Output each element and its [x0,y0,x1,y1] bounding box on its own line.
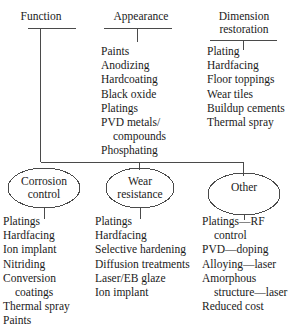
list-item: Ion implant [3,242,95,256]
list-wear-resistance: Platings Hardfacing Selective hardening … [95,214,200,299]
list-item: Hardfacing [3,228,95,242]
list-item: Conversion [3,271,95,285]
list-item: Platings—RF [202,214,297,228]
list-item: Hardfacing [207,58,297,72]
column-header-appearance: Appearance [99,10,183,23]
list-item: Thermal spray [3,299,95,313]
list-item: Hardfacing [95,228,200,242]
list-other: Platings—RF control PVD—doping Alloying—… [202,214,297,313]
node-label-wear-resistance: Wear resistance [107,175,173,202]
process-selection-tree-diagram: Function Appearance Dimension restoratio… [0,0,297,336]
list-item-continuation: structure—laser [202,285,297,299]
list-item: Platings [95,214,200,228]
list-corrosion-control: Platings Hardfacing Ion implant Nitridin… [3,214,95,328]
list-item: Ion implant [95,285,200,299]
node-label-corrosion-control: Corrosion control [10,175,78,202]
list-item: Selective hardening [95,242,200,256]
list-item: Buildup cements [207,101,297,115]
node-label-other: Other [213,181,275,194]
list-item: Diffusion treatments [95,257,200,271]
list-item: Anodizing [101,58,193,72]
list-dimension-restoration: Plating Hardfacing Floor toppings Wear t… [207,44,297,129]
list-item: Hardcoating [101,72,193,86]
list-item-continuation: coatings [3,285,95,299]
list-appearance: Paints Anodizing Hardcoating Black oxide… [101,44,193,158]
list-item-continuation: control [202,228,297,242]
list-item: Black oxide [101,87,193,101]
list-item: Platings [101,101,193,115]
list-item: Amorphous [202,271,297,285]
column-header-function: Function [8,10,74,23]
list-item: Paints [101,44,193,58]
list-item: Thermal spray [207,115,297,129]
list-item: Laser/EB glaze [95,271,200,285]
list-item: Paints [3,313,95,327]
column-header-dimension-restoration: Dimension restoration [205,10,283,36]
list-item: Alloying—laser [202,257,297,271]
list-item: Platings [3,214,95,228]
list-item: Nitriding [3,257,95,271]
list-item: PVD metals/ [101,115,193,129]
list-item: Plating [207,44,297,58]
list-item: Reduced cost [202,299,297,313]
list-item: Wear tiles [207,87,297,101]
list-item: PVD—doping [202,242,297,256]
list-item: Phosphating [101,143,193,157]
list-item: Floor toppings [207,72,297,86]
list-item-continuation: compounds [101,129,193,143]
